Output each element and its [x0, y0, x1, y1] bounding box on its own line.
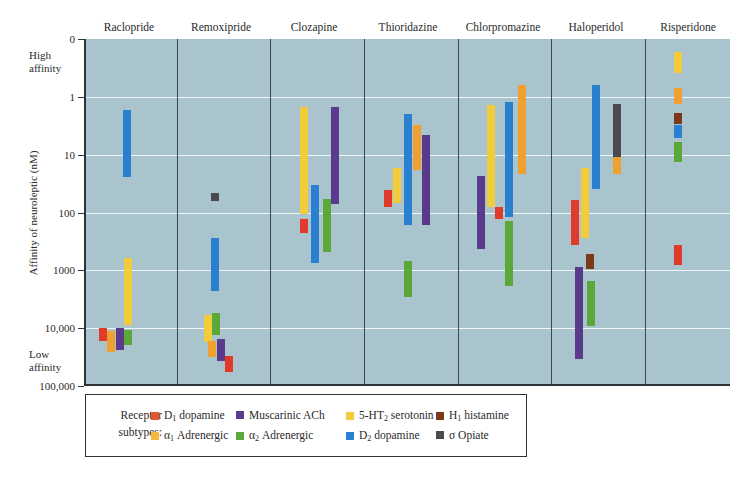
affinity-bar-haloperidol-5ht2 [581, 168, 589, 238]
legend-swatch-icon [346, 432, 354, 440]
y-tick-label: 10 [15, 149, 75, 161]
legend-label: D1 dopamine [164, 409, 225, 423]
affinity-bar-thioridazine-a1 [413, 125, 421, 169]
drug-label: Haloperidol [569, 21, 624, 33]
y-tick-label: 10,000 [15, 322, 75, 334]
column-divider [551, 39, 552, 384]
affinity-bar-raclopride-d1 [99, 328, 107, 341]
legend-item: α1 Adrenergic [151, 429, 228, 443]
affinity-bar-clozapine-a2 [323, 199, 331, 252]
affinity-bar-chlorpromazine-d1 [495, 207, 503, 219]
column-divider [177, 39, 178, 384]
affinity-bar-chlorpromazine-5ht2 [487, 105, 495, 207]
affinity-bar-thioridazine-a2 [404, 261, 412, 297]
legend-item: D2 dopamine [346, 429, 420, 443]
high-affinity-line1: High [29, 49, 51, 61]
legend-item: Muscarinic ACh [236, 409, 325, 421]
legend-label: Muscarinic ACh [249, 409, 325, 421]
affinity-bar-remoxipride-d2 [211, 238, 219, 291]
affinity-bar-raclopride-d2 [123, 110, 131, 177]
legend-swatch-icon [236, 432, 244, 440]
affinity-bar-remoxipride-d1 [225, 356, 233, 372]
affinity-bar-clozapine-d1 [300, 219, 308, 233]
affinity-bar-haloperidol-d1 [571, 200, 579, 246]
high-affinity-line2: affinity [29, 62, 61, 74]
affinity-bar-risperidone-a2 [674, 142, 682, 161]
drug-label: Clozapine [291, 21, 338, 33]
y-tick-mark [78, 386, 84, 387]
column-divider [458, 39, 459, 384]
affinity-bar-risperidone-h1 [674, 113, 682, 124]
drug-label: Chlorpromazine [466, 21, 541, 33]
y-tick-label: 1000 [15, 264, 75, 276]
affinity-bar-remoxipride-5ht2 [204, 315, 212, 343]
affinity-bar-remoxipride-sigma [211, 193, 219, 201]
affinity-bar-raclopride-a2 [124, 330, 132, 345]
legend-label: σ Opiate [449, 429, 489, 441]
affinity-bar-risperidone-d1 [674, 245, 682, 265]
legend-swatch-icon [151, 412, 159, 420]
low-affinity-line1: Low [29, 348, 49, 360]
affinity-bar-thioridazine-mach [422, 135, 430, 224]
affinity-bar-remoxipride-a1 [208, 341, 216, 358]
legend-swatch-icon [436, 431, 444, 439]
legend-label: α2 Adrenergic [249, 429, 313, 443]
affinity-bar-risperidone-5ht2 [674, 52, 682, 73]
legend-swatch-icon [346, 412, 354, 420]
affinity-bar-haloperidol-h1 [586, 254, 594, 270]
legend-item: H1 histamine [436, 409, 509, 423]
gridline [86, 328, 730, 329]
legend-swatch-icon [236, 411, 244, 419]
legend-item: α2 Adrenergic [236, 429, 313, 443]
affinity-bar-chlorpromazine-d2 [505, 102, 513, 217]
drug-label: Remoxipride [191, 21, 251, 33]
affinity-bar-clozapine-5ht2 [300, 107, 308, 214]
affinity-bar-thioridazine-5ht2 [393, 168, 401, 203]
affinity-bar-raclopride-5ht2 [124, 258, 132, 325]
affinity-bar-thioridazine-d1 [384, 190, 392, 207]
low-affinity-line2: affinity [29, 361, 61, 373]
affinity-bar-chlorpromazine-a1 [518, 85, 526, 173]
affinity-bar-raclopride-a1 [107, 331, 115, 352]
affinity-bar-clozapine-d2 [311, 185, 319, 263]
affinity-bar-chlorpromazine-a2 [505, 221, 513, 286]
affinity-bar-remoxipride-mach [217, 339, 225, 361]
column-divider [364, 39, 365, 384]
legend-label: D2 dopamine [359, 429, 420, 443]
legend: Receptor subtypes: D1 dopamineMuscarinic… [85, 394, 527, 457]
high-affinity-label: High affinity [29, 49, 61, 75]
y-tick-label: 0 [15, 33, 75, 45]
y-tick-label: 100,000 [15, 380, 75, 392]
affinity-bar-haloperidol-d2 [592, 85, 600, 188]
affinity-bar-haloperidol-a1 [613, 157, 621, 173]
affinity-bar-risperidone-d2 [674, 125, 682, 138]
y-tick-label: 1 [15, 91, 75, 103]
legend-item: D1 dopamine [151, 409, 225, 423]
column-divider [645, 39, 646, 384]
legend-swatch-icon [436, 412, 444, 420]
drug-label: Raclopride [104, 21, 154, 33]
affinity-bar-remoxipride-a2 [212, 313, 220, 335]
legend-label: 5-HT2 serotonin [359, 409, 434, 423]
drug-label: Risperidone [660, 21, 716, 33]
affinity-bar-raclopride-mach [116, 328, 124, 350]
legend-label: H1 histamine [449, 409, 509, 423]
column-divider [270, 39, 271, 384]
low-affinity-label: Low affinity [29, 348, 61, 374]
legend-label: α1 Adrenergic [164, 429, 228, 443]
legend-swatch-icon [151, 432, 159, 440]
affinity-bar-haloperidol-a2 [587, 281, 595, 326]
legend-item: σ Opiate [436, 429, 489, 441]
y-tick-label: 100 [15, 207, 75, 219]
affinity-bar-thioridazine-d2 [404, 114, 412, 224]
affinity-bar-chlorpromazine-mach [477, 176, 485, 249]
legend-item: 5-HT2 serotonin [346, 409, 434, 423]
affinity-bar-clozapine-mach [331, 107, 339, 204]
affinity-bar-haloperidol-mach [575, 267, 583, 359]
gridline [86, 97, 730, 98]
drug-label: Thioridazine [379, 21, 438, 33]
affinity-bar-risperidone-a1 [674, 88, 682, 104]
affinity-bar-haloperidol-sigma [613, 104, 621, 158]
